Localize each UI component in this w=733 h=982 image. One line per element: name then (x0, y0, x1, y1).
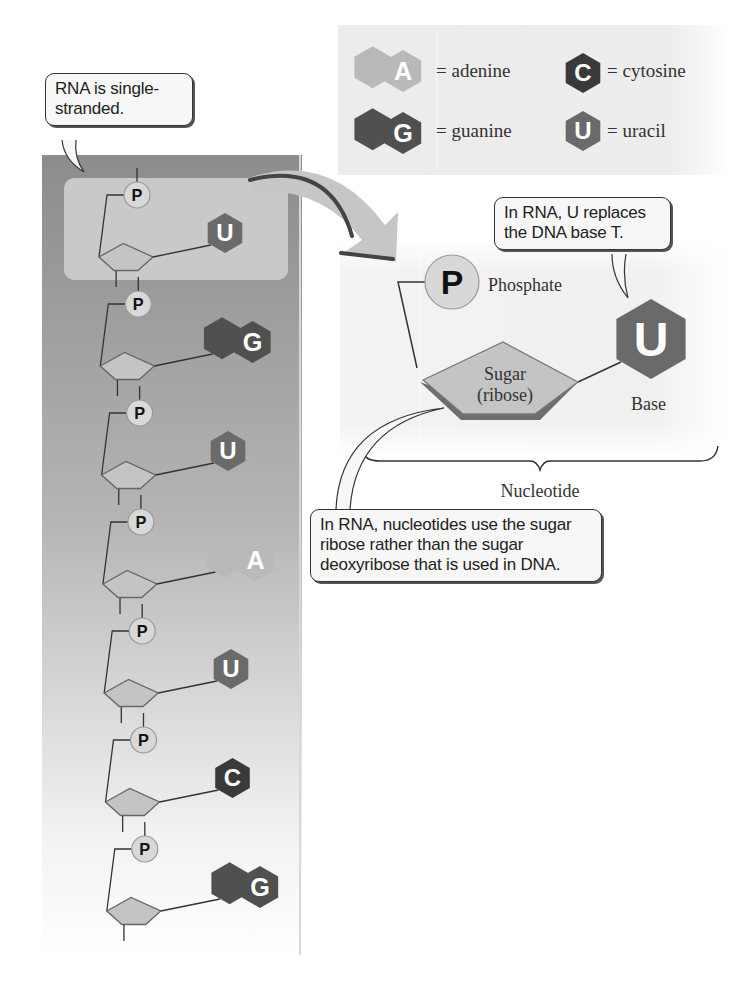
base-letter: U (216, 219, 233, 246)
phosphate-letter: P (133, 295, 144, 313)
base-letter: G (393, 119, 413, 147)
base-letter: A (394, 57, 412, 85)
sugar-label-line1: Sugar (484, 364, 526, 384)
base-letter: A (246, 546, 264, 574)
phosphate-letter: P (135, 513, 146, 531)
base-letter: C (574, 59, 591, 86)
callout-single-stranded: RNA is single- stranded. (45, 73, 193, 126)
base-letter: U (634, 313, 669, 366)
base-letter: G (243, 328, 263, 356)
diagram-canvas: UPGPUPAPUPCPGP ACGU PU (0, 0, 733, 982)
base-letter: C (224, 764, 241, 791)
phosphate-letter: P (132, 186, 143, 204)
base-letter: U (574, 117, 591, 144)
highlighted-nucleotide-box (64, 178, 288, 280)
phosphate-group: P (127, 400, 153, 426)
phosphate-group: P (129, 618, 155, 644)
phosphate-group: P (128, 509, 154, 535)
sugar-label-line2: (ribose) (477, 385, 533, 405)
phosphate-group: P (132, 836, 158, 862)
phosphate-label: Phosphate (488, 275, 562, 296)
legend-adenine-label: = adenine (436, 60, 511, 82)
legend-background (338, 25, 730, 175)
nucleotide-brace-label: Nucleotide (470, 481, 610, 502)
legend-cytosine-label: = cytosine (607, 60, 686, 82)
sugar-label: Sugar (ribose) (455, 364, 555, 406)
legend-uracil-label: = uracil (607, 120, 666, 142)
base-letter: U (219, 437, 236, 464)
base-letter: U (222, 655, 239, 682)
phosphate-letter: P (138, 731, 149, 749)
phosphate-group: P (124, 182, 150, 208)
phosphate-letter: P (441, 263, 464, 301)
phosphate-letter: P (134, 404, 145, 422)
phosphate-group: P (125, 291, 151, 317)
callout-ribose-sugar: In RNA, nucleotides use the sugar ribose… (310, 509, 602, 582)
phosphate-letter: P (137, 622, 148, 640)
base-letter: G (250, 873, 270, 901)
phosphate-letter: P (139, 840, 150, 858)
rna-structure-diagram: UPGPUPAPUPCPGP ACGU PU RNA is single- st… (0, 0, 733, 982)
legend-guanine-label: = guanine (436, 120, 512, 142)
phosphate-group: P (131, 727, 157, 753)
callout-u-replaces-t: In RNA, U replaces the DNA base T. (494, 197, 671, 250)
detail-phosphate: P (425, 255, 479, 309)
base-label: Base (631, 394, 666, 415)
